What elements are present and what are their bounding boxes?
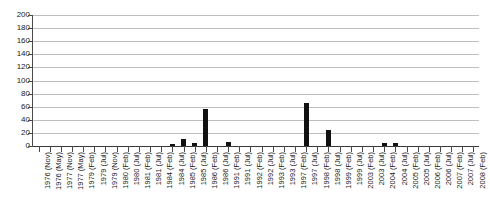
y-tick-label: 100 [0,77,30,85]
y-tick-label: 0 [0,142,30,150]
y-tick-label: 160 [0,37,30,45]
x-tick-label: 1999 (Feb) [343,152,351,189]
x-tick-label: 1993 (Feb) [276,152,284,189]
x-tick-label: 1997 (Feb) [298,152,306,189]
x-tick-label: 1998 (Jul) [332,152,340,185]
x-tick-label: 1977 (May) [75,152,83,190]
x-tick-label: 1992 (Jul) [265,152,273,185]
x-tick-label: 1992 (Feb) [254,152,262,189]
x-tick-label: 1977 (Nov) [64,152,72,189]
x-tick-label: 1981 (Jul) [153,152,161,185]
x-tick-label: 1984 (Jul) [176,152,184,185]
x-tick-label: 1976 (Nov) [42,152,50,189]
y-tick-label: 180 [0,24,30,32]
bar [203,109,208,146]
bar-chart: 020406080100120140160180200 1976 (Nov)19… [0,0,490,212]
bar [326,130,331,146]
y-tick-label: 20 [0,129,30,137]
x-tick-label: 2003 (Feb) [365,152,373,189]
x-tick-label: 2003 (Jul) [376,152,384,185]
x-tick-label: 1985 (Jul) [198,152,206,185]
y-tick-label: 120 [0,63,30,71]
x-tick-label: 1991 (Jul) [242,152,250,185]
plot-area [33,15,479,146]
x-tick-label: 2007 (Jul) [465,152,473,185]
y-axis-labels: 020406080100120140160180200 [0,0,30,212]
bar [304,103,309,146]
x-tick-label: 2004 (Jul) [399,152,407,185]
y-tick-label: 80 [0,90,30,98]
x-tick-label: 1980 (Feb) [120,152,128,189]
x-tick-label: 1984 (Feb) [164,152,172,189]
x-tick-label: 1979 (Feb) [86,152,94,189]
x-tick-label: 1976 (May) [53,152,61,190]
x-axis-labels: 1976 (Nov)1976 (May)1977 (Nov)1977 (May)… [33,152,479,210]
x-tick-label: 1986 (Feb) [209,152,217,189]
x-tick-label: 1998 (Feb) [321,152,329,189]
x-tick-label: 1993 (Jul) [287,152,295,185]
x-tick-label: 1999 (Jul) [354,152,362,185]
x-tick-label: 2006 (Feb) [432,152,440,189]
x-tick-label: 2007 (Feb) [454,152,462,189]
x-tick-label: 2008 (Feb) [477,152,485,189]
y-tick-label: 60 [0,103,30,111]
x-tick-label: 2005 (Feb) [410,152,418,189]
x-tick-label: 2004 (Feb) [387,152,395,189]
y-tick-label: 200 [0,11,30,19]
y-tick-label: 40 [0,116,30,124]
x-tick-label: 1980 (Jul) [131,152,139,185]
x-tick-label: 1997 (Jul) [309,152,317,185]
x-tick-label: 1986 (Jul) [220,152,228,185]
x-tick-label: 1979 (Jul) [98,152,106,185]
x-tick-label: 2005 (Jul) [421,152,429,185]
x-tick-label: 1985 (Feb) [187,152,195,189]
x-tick-label: 1991 (Feb) [231,152,239,189]
x-tick-label: 1979 (Nov) [109,152,117,189]
x-tick-label: 2006 (Jul) [443,152,451,185]
bar-series [33,15,479,146]
x-tick-label: 1981 (Feb) [142,152,150,189]
y-tick-label: 140 [0,50,30,58]
